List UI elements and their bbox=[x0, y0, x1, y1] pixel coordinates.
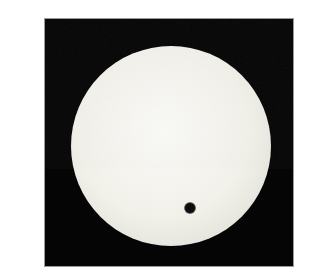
photo-frame bbox=[44, 18, 294, 267]
venus-dot bbox=[184, 202, 196, 214]
sun-disk bbox=[71, 46, 271, 246]
